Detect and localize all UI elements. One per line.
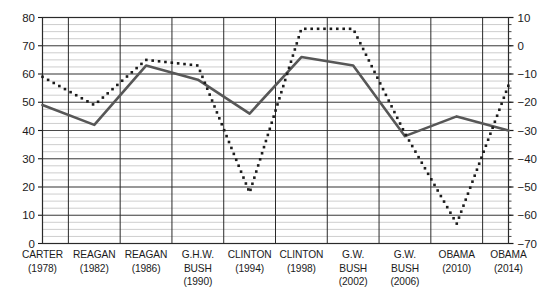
dotted-series-dot xyxy=(216,111,219,114)
dotted-series-dot xyxy=(417,156,420,159)
dotted-series-dot xyxy=(464,198,467,201)
dotted-series-dot xyxy=(204,81,207,84)
dotted-series-dot xyxy=(237,164,240,167)
dotted-series-dot xyxy=(476,168,479,171)
category-label: (2010) xyxy=(442,263,471,274)
dotted-series-dot xyxy=(376,76,379,79)
dotted-series-dot xyxy=(449,211,452,214)
dotted-series-dot xyxy=(259,158,262,161)
dotted-series-dot xyxy=(494,120,497,123)
dotted-series-dot xyxy=(411,145,414,148)
category-label: CLINTON xyxy=(228,249,272,260)
dotted-series-dot xyxy=(402,128,405,131)
category-label: (1986) xyxy=(132,263,161,274)
dotted-series-dot xyxy=(170,61,173,64)
left-tick-label: 60 xyxy=(22,68,35,80)
dotted-series-dot xyxy=(126,75,129,78)
dotted-series-dot xyxy=(211,99,214,102)
dotted-series-dot xyxy=(121,79,124,82)
dotted-series-dot xyxy=(292,54,295,57)
dotted-series-dot xyxy=(233,153,236,156)
category-label: (1998) xyxy=(287,263,316,274)
dotted-series-dot xyxy=(218,117,221,120)
category-label: BUSH xyxy=(391,263,419,274)
dotted-series-dot xyxy=(408,139,411,142)
dotted-series-dot xyxy=(469,186,472,189)
dotted-series-dot xyxy=(471,180,474,183)
dotted-series-dot xyxy=(240,170,243,173)
right-tick-label: −40 xyxy=(518,153,538,165)
category-label: G.W. xyxy=(342,249,364,260)
dotted-series-dot xyxy=(485,144,488,147)
dotted-series-dot xyxy=(151,59,154,62)
right-tick-label: −70 xyxy=(518,238,538,250)
dotted-series-dot xyxy=(405,134,408,137)
dotted-series-dot xyxy=(462,204,465,207)
category-label: G.H.W. xyxy=(182,249,214,260)
left-tick-label: 80 xyxy=(22,12,35,24)
dotted-series-dot xyxy=(75,94,78,97)
category-label: (2014) xyxy=(494,263,523,274)
right-tick-label: −30 xyxy=(518,125,538,137)
dotted-series-dot xyxy=(102,96,105,99)
dotted-series-dot xyxy=(443,200,446,203)
left-axis-tick-labels: 01020304050607080 xyxy=(22,12,35,250)
dotted-series-dot xyxy=(330,28,333,31)
dotted-series-dot xyxy=(268,128,271,131)
dotted-series-dot xyxy=(111,88,114,91)
dotted-series-dot xyxy=(359,42,362,45)
dotted-series-dot xyxy=(276,103,279,106)
dotted-series-dot xyxy=(365,53,368,56)
category-label: (2002) xyxy=(339,276,368,287)
dotted-series-dot xyxy=(288,67,291,70)
dotted-series-dot xyxy=(278,97,281,100)
left-tick-label: 20 xyxy=(22,181,35,193)
line-chart: 01020304050607080 −70−60−50−40−30−20−100… xyxy=(0,0,558,303)
dotted-series-dot xyxy=(336,28,339,31)
dotted-series-dot xyxy=(478,162,481,165)
dotted-series-dot xyxy=(290,60,293,63)
left-tick-label: 40 xyxy=(22,125,35,137)
dotted-series-dot xyxy=(433,184,436,187)
category-label: REAGAN xyxy=(125,249,167,260)
dotted-series-dot xyxy=(263,146,266,149)
dotted-series-dot xyxy=(387,99,390,102)
dotted-series-dot xyxy=(270,121,273,124)
dotted-series-dot xyxy=(420,161,423,164)
dotted-series-dot xyxy=(427,173,430,176)
right-tick-label: −20 xyxy=(518,96,538,108)
category-label: BUSH xyxy=(339,263,367,274)
dotted-series-dot xyxy=(353,30,356,33)
dotted-series-dot xyxy=(304,28,307,31)
dotted-series-dot xyxy=(399,122,402,125)
dotted-series-dot xyxy=(201,76,204,79)
dotted-series-dot xyxy=(164,61,167,64)
category-label: BUSH xyxy=(184,263,212,274)
dotted-series-dot xyxy=(284,79,287,82)
dotted-series-dot xyxy=(261,152,264,155)
dotted-series-dot xyxy=(97,100,100,103)
dotted-series-dot xyxy=(116,84,119,87)
dotted-series-dot xyxy=(92,103,95,106)
dotted-series-dot xyxy=(368,59,371,62)
dotted-series-dot xyxy=(86,100,89,103)
dotted-series-dot xyxy=(295,42,298,45)
dotted-series-dot xyxy=(190,63,193,66)
dotted-series-dot xyxy=(280,91,283,94)
right-tick-label: 0 xyxy=(518,40,524,52)
dotted-series-dot xyxy=(373,71,376,74)
dotted-series-dot xyxy=(208,93,211,96)
dotted-series-dot xyxy=(500,102,503,105)
dotted-series-dot xyxy=(265,140,268,143)
right-tick-label: −60 xyxy=(518,209,538,221)
dotted-series-dot xyxy=(342,28,345,31)
chart-container: 01020304050607080 −70−60−50−40−30−20−100… xyxy=(0,0,558,303)
category-label: CLINTON xyxy=(279,249,323,260)
dotted-series-dot xyxy=(52,82,55,85)
dotted-series-dot xyxy=(297,36,300,39)
dotted-series-dot xyxy=(177,62,180,65)
dotted-series-dot xyxy=(41,76,44,79)
left-tick-label: 70 xyxy=(22,40,35,52)
dotted-series-dot xyxy=(220,123,223,126)
dotted-series-dot xyxy=(489,132,492,135)
